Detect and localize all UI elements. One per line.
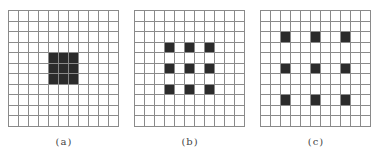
grid-cell xyxy=(99,64,109,75)
grid-cell xyxy=(301,85,311,96)
grid-cell xyxy=(109,95,119,106)
grid-cell xyxy=(145,22,155,33)
grid-cell xyxy=(225,106,235,117)
grid-cell xyxy=(291,106,301,117)
grid-cell xyxy=(235,53,245,64)
grid-cell xyxy=(109,11,119,22)
grid-cell xyxy=(175,95,185,106)
grid-cell xyxy=(195,22,205,33)
grid-cell xyxy=(185,95,195,106)
grid-cell xyxy=(19,74,29,85)
grid-cell xyxy=(235,11,245,22)
grid-cell xyxy=(9,32,19,43)
grid-cell xyxy=(235,85,245,96)
grid-cell xyxy=(69,106,79,117)
grid-cell xyxy=(205,22,215,33)
panel-b xyxy=(134,10,245,127)
grid-cell xyxy=(331,43,341,54)
grid-cell xyxy=(79,106,89,117)
grid-cell xyxy=(39,53,49,64)
grid-cell xyxy=(225,64,235,75)
grid-cell xyxy=(9,53,19,64)
grid-cell xyxy=(351,32,361,43)
grid-cell xyxy=(205,11,215,22)
panel-a xyxy=(8,10,119,127)
grid-cell xyxy=(351,22,361,33)
filled-cell xyxy=(59,74,69,85)
grid-cell xyxy=(29,74,39,85)
grid-cell xyxy=(291,85,301,96)
grid-cell xyxy=(29,32,39,43)
grid-cell xyxy=(59,32,69,43)
grid-cell xyxy=(99,53,109,64)
grid-cell xyxy=(215,85,225,96)
grid-cell xyxy=(301,22,311,33)
caption-b: (b) xyxy=(134,136,246,147)
grid-cell xyxy=(281,85,291,96)
caption-c: (c) xyxy=(260,136,372,147)
grid-cell xyxy=(261,95,271,106)
filled-cell xyxy=(281,32,291,43)
grid-cell xyxy=(9,116,19,127)
grid-cell xyxy=(145,74,155,85)
grid-cell xyxy=(165,11,175,22)
grid-cell xyxy=(155,74,165,85)
grid-cell xyxy=(291,64,301,75)
filled-cell xyxy=(205,64,215,75)
grid-cell xyxy=(109,53,119,64)
grid-cell xyxy=(195,32,205,43)
grid-cell xyxy=(331,22,341,33)
grid-cell xyxy=(311,53,321,64)
filled-cell xyxy=(59,53,69,64)
grid-cell xyxy=(89,22,99,33)
grid-cell xyxy=(39,106,49,117)
grid-cell xyxy=(145,43,155,54)
grid-cell xyxy=(155,106,165,117)
grid-cell xyxy=(9,64,19,75)
grid-cell xyxy=(99,11,109,22)
grid-cell xyxy=(99,43,109,54)
grid-cell xyxy=(261,22,271,33)
grid-cell xyxy=(99,74,109,85)
grid-cell xyxy=(49,116,59,127)
grid-cell xyxy=(225,43,235,54)
grid-cell xyxy=(195,85,205,96)
grid-cell xyxy=(215,11,225,22)
grid-cell xyxy=(99,95,109,106)
grid-cell xyxy=(271,95,281,106)
grid-cell xyxy=(235,74,245,85)
grid-cell xyxy=(311,43,321,54)
grid-cell xyxy=(145,106,155,117)
grid-cell xyxy=(155,11,165,22)
grid-cell xyxy=(311,106,321,117)
grid-cell xyxy=(195,11,205,22)
grid-cell xyxy=(29,116,39,127)
grid-cell xyxy=(39,64,49,75)
grid-cell xyxy=(185,22,195,33)
grid-cell xyxy=(185,53,195,64)
grid-cell xyxy=(69,95,79,106)
grid-cell xyxy=(331,64,341,75)
grid-cell xyxy=(19,106,29,117)
grid-cell xyxy=(9,106,19,117)
grid-cell xyxy=(79,11,89,22)
grid-cell xyxy=(341,11,351,22)
grid-cell xyxy=(235,64,245,75)
grid-cell xyxy=(135,85,145,96)
grid-cell xyxy=(291,22,301,33)
grid-cell xyxy=(195,53,205,64)
filled-cell xyxy=(281,95,291,106)
grid-cell xyxy=(109,85,119,96)
grid-cell xyxy=(109,116,119,127)
grid-cell xyxy=(271,85,281,96)
grid-cell xyxy=(341,85,351,96)
grid-cell xyxy=(49,32,59,43)
filled-cell xyxy=(341,95,351,106)
grid-cell xyxy=(165,74,175,85)
grid-cell xyxy=(59,95,69,106)
grid-cell xyxy=(341,106,351,117)
grid-cell xyxy=(235,106,245,117)
grid-cell xyxy=(155,64,165,75)
grid-cell xyxy=(341,116,351,127)
grid-cell xyxy=(215,106,225,117)
